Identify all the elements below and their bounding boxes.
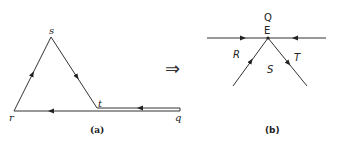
diagram-a: s r t q (a) <box>9 25 181 135</box>
arrow-s-t-icon <box>76 76 77 78</box>
caption-b: (b) <box>265 125 280 135</box>
implies-arrow-icon: ⇒ <box>165 58 180 79</box>
region-label-t: T <box>294 52 301 63</box>
vertex-label-s: s <box>49 25 54 36</box>
caption-a: (a) <box>90 125 104 135</box>
region-label-q: Q <box>264 12 272 23</box>
diagram-canvas: s r t q (a) ⇒ Q E R S T (b) <box>0 0 337 153</box>
vertex-label-r: r <box>9 112 15 123</box>
diagram-b: Q E R S T (b) <box>207 12 326 135</box>
vertex-label-t: t <box>98 98 103 109</box>
vertex-label-q: q <box>175 112 181 123</box>
vertex-e-dot <box>266 36 269 39</box>
arrow-r-s-icon <box>32 74 33 76</box>
region-label-s: S <box>267 64 274 75</box>
arrow-lower-right-icon <box>287 62 289 64</box>
edge-s-t <box>51 37 97 108</box>
region-label-r: R <box>233 49 240 60</box>
vertex-label-e: E <box>264 25 270 36</box>
